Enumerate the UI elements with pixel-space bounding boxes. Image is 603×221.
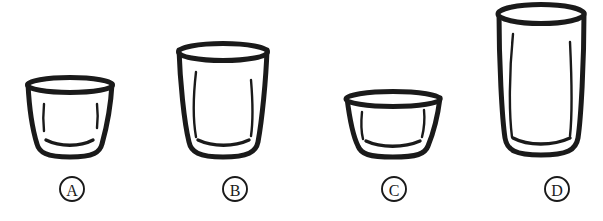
glass-a-rim — [28, 78, 113, 93]
glass-d-label-text: D — [551, 182, 563, 199]
glass-a-group — [28, 78, 113, 158]
glass-d-rim — [498, 5, 584, 24]
glass-b-body — [179, 50, 267, 157]
glass-b-label-text: B — [230, 182, 241, 199]
figure-canvas: A B C D — [0, 0, 603, 221]
glass-c-rim — [346, 92, 440, 107]
glasses-comparison-figure: A B C D — [0, 0, 603, 221]
glass-c-label-text: C — [389, 182, 400, 199]
glass-d-group — [498, 5, 584, 156]
glass-b-group — [179, 44, 268, 158]
glass-d-label: D — [545, 177, 569, 201]
glass-a-label: A — [60, 177, 84, 201]
glass-b-label: B — [223, 177, 247, 201]
glass-a-label-text: A — [66, 182, 78, 199]
glass-b-rim — [179, 44, 268, 61]
glass-a-highlight-left — [43, 104, 44, 131]
glass-c-label: C — [382, 177, 406, 201]
glass-c-group — [346, 92, 440, 158]
glass-a-highlight-right — [97, 104, 98, 128]
